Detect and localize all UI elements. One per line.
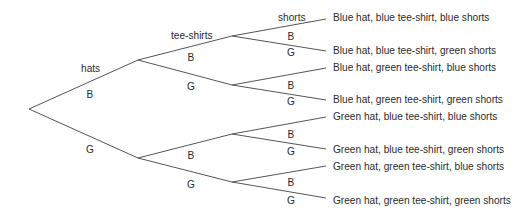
outcome-label: Green hat, blue tee-shirt, green shorts [333, 143, 504, 155]
header-hats: hats [81, 62, 100, 74]
outcome-label: Green hat, green tee-shirt, blue shorts [333, 160, 504, 172]
shorts-label: G [287, 145, 295, 157]
hat-label-blue: B [87, 88, 94, 100]
header-shorts: shorts [278, 11, 306, 23]
outcome-label: Blue hat, green tee-shirt, green shorts [333, 93, 503, 105]
teeshirt-label: B [188, 149, 195, 161]
branch-b-teeshirt-green [138, 60, 232, 85]
outcome-label: Green hat, green tee-shirt, green shorts [333, 194, 511, 206]
teeshirt-label: B [188, 51, 195, 63]
outcome-label: Blue hat, blue tee-shirt, blue shorts [333, 11, 489, 23]
hat-label-green: G [86, 143, 94, 155]
shorts-label: B [288, 128, 295, 140]
shorts-label: B [288, 79, 295, 91]
shorts-label: G [287, 95, 295, 107]
branch-hat-green [29, 109, 138, 158]
shorts-label: G [287, 194, 295, 206]
shorts-label: B [288, 176, 295, 188]
branch-g-teeshirt-green [138, 158, 232, 182]
outcome-label: Blue hat, blue tee-shirt, green shorts [333, 44, 496, 56]
teeshirt-label: G [187, 178, 195, 190]
branch-g-teeshirt-blue [138, 134, 232, 158]
tree-diagram: hats tee-shirts shorts B G B G B G B G B… [0, 0, 523, 219]
teeshirt-label: G [187, 80, 195, 92]
shorts-label: B [288, 30, 295, 42]
outcome-label: Blue hat, green tee-shirt, blue shorts [333, 61, 496, 73]
outcome-label: Green hat, blue tee-shirt, blue shorts [333, 110, 497, 122]
shorts-label: G [287, 46, 295, 58]
header-tee-shirts: tee-shirts [171, 29, 213, 41]
